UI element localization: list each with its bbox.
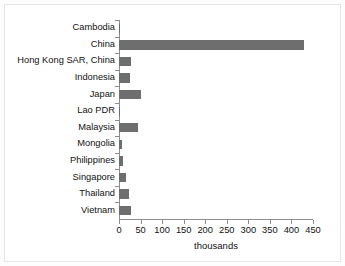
- x-tick: [227, 220, 228, 224]
- bar-row: [119, 103, 313, 120]
- bar[interactable]: [119, 140, 122, 149]
- x-tick: [119, 220, 120, 224]
- bar-row: [119, 169, 313, 186]
- bar-row: [119, 136, 313, 153]
- bar[interactable]: [119, 123, 138, 132]
- x-tick: [141, 220, 142, 224]
- x-tick: [270, 220, 271, 224]
- x-tick: [291, 220, 292, 224]
- bar[interactable]: [119, 90, 141, 99]
- category-label: Philippines: [0, 155, 115, 166]
- bar[interactable]: [119, 156, 123, 165]
- bar-row: [119, 202, 313, 219]
- category-label: Malaysia: [0, 122, 115, 133]
- bar-row: [119, 153, 313, 170]
- x-tick: [162, 220, 163, 224]
- category-label: Cambodia: [0, 22, 115, 33]
- bar-row: [119, 53, 313, 70]
- bar[interactable]: [119, 107, 120, 116]
- x-tick-label: 450: [298, 225, 328, 236]
- x-axis-line: [119, 219, 313, 220]
- plot-area: [119, 20, 313, 219]
- bar-row: [119, 37, 313, 54]
- x-tick: [248, 220, 249, 224]
- category-label: Mongolia: [0, 138, 115, 149]
- bar-row: [119, 86, 313, 103]
- category-label: Vietnam: [0, 205, 115, 216]
- bar-row: [119, 120, 313, 137]
- chart-figure: CambodiaChinaHong Kong SAR, ChinaIndones…: [0, 0, 345, 266]
- bar-row: [119, 186, 313, 203]
- bar[interactable]: [119, 189, 129, 198]
- category-label: China: [0, 39, 115, 50]
- category-label: Thailand: [0, 188, 115, 199]
- bar[interactable]: [119, 206, 131, 215]
- x-tick: [184, 220, 185, 224]
- bar[interactable]: [119, 173, 126, 182]
- x-tick: [205, 220, 206, 224]
- bar[interactable]: [119, 57, 131, 66]
- x-axis-title: thousands: [119, 240, 313, 251]
- category-label: Lao PDR: [0, 105, 115, 116]
- bar[interactable]: [119, 24, 120, 33]
- category-label: Singapore: [0, 172, 115, 183]
- category-label: Japan: [0, 89, 115, 100]
- x-tick: [313, 220, 314, 224]
- bar-row: [119, 20, 313, 37]
- category-label: Indonesia: [0, 72, 115, 83]
- bar[interactable]: [119, 40, 304, 49]
- category-label: Hong Kong SAR, China: [0, 55, 115, 66]
- bar[interactable]: [119, 73, 130, 82]
- bar-row: [119, 70, 313, 87]
